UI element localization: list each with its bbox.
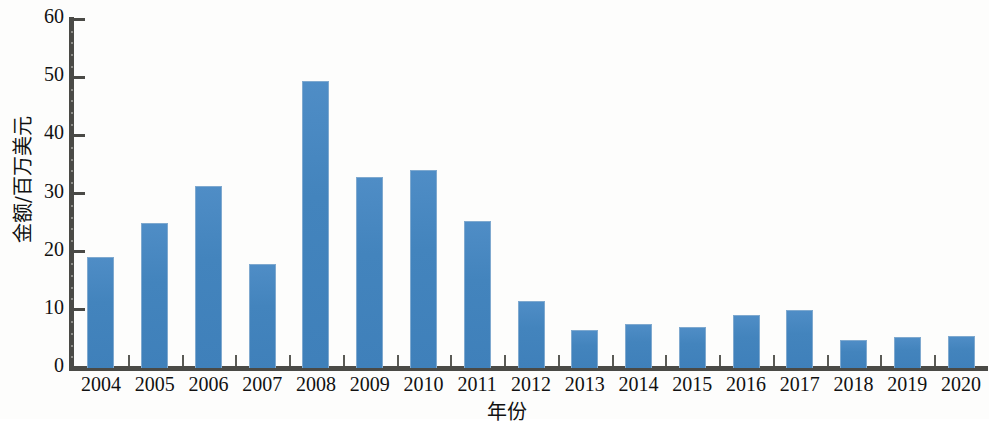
bar	[518, 301, 545, 368]
x-axis-tick-label: 2020	[931, 373, 989, 396]
bar	[786, 310, 813, 368]
x-axis-tick-label: 2008	[286, 373, 346, 396]
bar	[571, 330, 598, 368]
bar	[948, 336, 975, 368]
x-axis-tick-label: 2011	[447, 373, 507, 396]
bar	[894, 337, 921, 368]
x-axis-tick-label: 2012	[501, 373, 561, 396]
y-axis-tick	[74, 367, 85, 370]
bar	[87, 257, 114, 368]
bar	[410, 170, 437, 368]
bar	[195, 186, 222, 368]
x-axis-title: 年份	[487, 396, 527, 425]
x-axis-tick-label: 2009	[340, 373, 400, 396]
x-axis-tick-label: 2017	[770, 373, 830, 396]
x-axis-tick-label: 2018	[824, 373, 884, 396]
bar	[840, 340, 867, 368]
x-axis-tick-label: 2010	[393, 373, 453, 396]
bar	[679, 327, 706, 368]
bar	[302, 81, 329, 368]
bar	[625, 324, 652, 368]
bars-layer	[0, 0, 989, 366]
bar	[464, 221, 491, 368]
x-axis-tick-label: 2016	[716, 373, 776, 396]
x-axis-tick-label: 2019	[877, 373, 937, 396]
x-axis-tick-label: 2015	[662, 373, 722, 396]
bar	[733, 315, 760, 369]
bar	[249, 264, 276, 368]
x-axis-tick-label: 2007	[232, 373, 292, 396]
x-axis-tick-label: 2013	[555, 373, 615, 396]
bar	[141, 223, 168, 368]
bar	[356, 177, 383, 368]
x-axis-tick-label: 2014	[609, 373, 669, 396]
x-axis-tick-label: 2004	[71, 373, 131, 396]
x-axis-tick-label: 2006	[178, 373, 238, 396]
x-axis-tick-label: 2005	[125, 373, 185, 396]
